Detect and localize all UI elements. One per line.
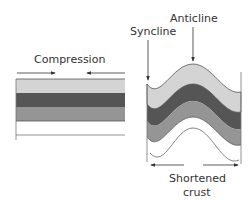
anticline-label: Anticline	[170, 12, 218, 25]
crust-label: crust	[183, 186, 211, 199]
fold-diagram: Compression Syncline Anticline Shortened…	[0, 0, 251, 201]
shortened-label: Shortened	[169, 172, 226, 185]
flat-strata	[16, 79, 125, 140]
syncline-label: Syncline	[130, 25, 177, 38]
compression-label: Compression	[34, 53, 105, 66]
folded-strata	[147, 64, 241, 164]
